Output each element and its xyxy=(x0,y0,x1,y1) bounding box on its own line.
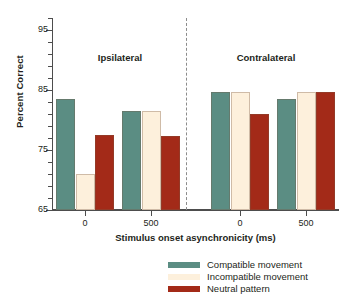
bar xyxy=(250,114,269,210)
x-tick xyxy=(306,211,307,216)
x-axis-title: Stimulus onset asynchronicity (ms) xyxy=(52,232,339,243)
y-tick-label: 65 xyxy=(8,205,48,214)
legend-label: Compatible movement xyxy=(207,259,302,271)
bar-group xyxy=(277,18,335,210)
bar-group xyxy=(56,18,114,210)
y-tick-label: 85 xyxy=(8,85,48,94)
bar-group xyxy=(211,18,269,210)
bar xyxy=(95,135,114,210)
legend-swatch xyxy=(168,286,200,292)
bar xyxy=(277,99,296,210)
x-tick xyxy=(85,211,86,216)
bar xyxy=(76,174,95,210)
y-tick-label: 75 xyxy=(8,145,48,154)
bar-group xyxy=(122,18,180,210)
x-tick-label: 0 xyxy=(220,218,260,228)
chart-figure: Percent Correct 65758595 Ipsilateral Con… xyxy=(0,0,349,305)
x-tick-label: 0 xyxy=(65,218,105,228)
legend-item: Incompatible movement xyxy=(168,271,308,283)
x-tick-label: 500 xyxy=(286,218,326,228)
bar xyxy=(142,111,161,210)
bar xyxy=(316,92,335,210)
plot-area xyxy=(52,18,339,210)
x-tick xyxy=(240,211,241,216)
bar xyxy=(122,111,141,210)
legend-item: Neutral pattern xyxy=(168,283,308,295)
x-tick-label: 500 xyxy=(131,218,171,228)
bar xyxy=(231,92,250,210)
bar xyxy=(211,92,230,210)
legend-swatch xyxy=(168,262,200,268)
legend-label: Neutral pattern xyxy=(207,283,270,295)
bar xyxy=(297,92,316,210)
y-tick-label: 95 xyxy=(8,25,48,34)
legend: Compatible movementIncompatible movement… xyxy=(168,259,308,295)
x-tick xyxy=(151,211,152,216)
legend-label: Incompatible movement xyxy=(207,271,308,283)
legend-swatch xyxy=(168,274,200,280)
legend-item: Compatible movement xyxy=(168,259,308,271)
bar xyxy=(161,136,180,210)
bar xyxy=(56,99,75,210)
